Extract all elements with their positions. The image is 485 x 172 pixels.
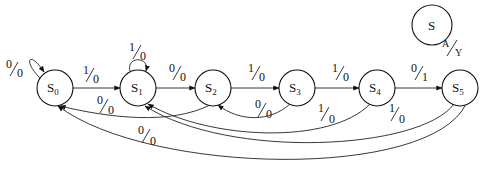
legend-output-label: Y <box>455 47 462 58</box>
state-s1: S1 <box>120 70 156 106</box>
state-diagram: S A Y S0 S1 S2 S3 S4 S5 0 <box>0 0 485 172</box>
svg-text:0: 0 <box>93 72 99 86</box>
state-s3: S3 <box>279 70 315 106</box>
svg-text:0: 0 <box>180 70 186 84</box>
label-s3-s4: 1 0 <box>332 61 349 84</box>
label-s0-self: 0 0 <box>6 57 23 80</box>
svg-text:0: 0 <box>266 107 272 121</box>
label-s4-s1: 1 0 <box>318 101 335 126</box>
svg-text:1: 1 <box>83 63 89 77</box>
svg-text:1: 1 <box>389 101 395 115</box>
svg-text:0: 0 <box>169 61 175 75</box>
svg-text:0: 0 <box>259 70 265 84</box>
edge-s3-s2 <box>218 104 290 118</box>
svg-text:0: 0 <box>138 123 144 137</box>
svg-text:0: 0 <box>140 49 146 63</box>
svg-text:0: 0 <box>329 112 335 126</box>
state-s5: S5 <box>442 70 478 106</box>
svg-text:0: 0 <box>108 103 114 117</box>
label-s5-s0: 0 0 <box>138 123 156 148</box>
edge-s5-s1 <box>145 104 454 143</box>
svg-text:1: 1 <box>248 61 254 75</box>
svg-text:0: 0 <box>399 112 405 126</box>
state-s2: S2 <box>195 70 231 106</box>
label-s0-s1: 1 0 <box>83 63 99 86</box>
legend: S A Y <box>412 5 462 58</box>
svg-text:1: 1 <box>332 61 338 75</box>
legend-state-label: S <box>428 18 435 33</box>
svg-text:1: 1 <box>422 70 428 84</box>
label-s2-s3: 1 0 <box>248 61 265 84</box>
svg-text:0: 0 <box>97 93 103 107</box>
svg-text:0: 0 <box>17 66 23 80</box>
svg-text:1: 1 <box>129 40 135 54</box>
label-s2-s0: 0 0 <box>97 93 114 117</box>
edge-s2-s0 <box>60 105 210 118</box>
state-s0: S0 <box>37 70 73 106</box>
legend-input-label: A <box>442 38 450 49</box>
svg-text:0: 0 <box>343 70 349 84</box>
svg-text:0: 0 <box>255 97 261 111</box>
label-s1-s2: 0 0 <box>169 61 186 84</box>
svg-text:1: 1 <box>318 101 324 115</box>
label-s5-s1: 1 0 <box>389 101 405 126</box>
label-s4-s5: 0 1 <box>411 61 428 84</box>
svg-text:0: 0 <box>6 57 12 71</box>
svg-text:0: 0 <box>150 134 156 148</box>
svg-text:0: 0 <box>411 61 417 75</box>
